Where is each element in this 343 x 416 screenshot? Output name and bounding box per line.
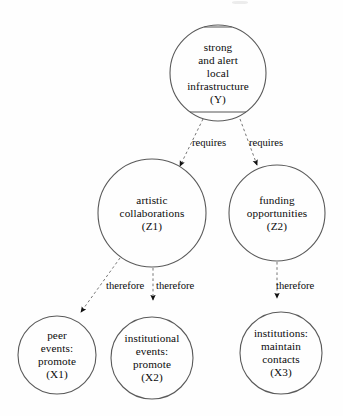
node-x3-institutions-maintain [240, 312, 322, 394]
edge-z1-to-x1-label: therefore [106, 281, 144, 292]
nodes-layer [18, 25, 325, 399]
scan-artifact [232, 1, 248, 4]
diagram-canvas [0, 0, 343, 416]
concept-map-diagram: strongand alertlocalinfrastructure(Y)art… [0, 0, 343, 416]
edge-z1-to-x2-label: therefore [156, 281, 194, 292]
node-y-infrastructure [170, 25, 266, 121]
edge-y-to-z1-label: requires [192, 138, 226, 149]
edge-z2-to-x3-label: therefore [276, 281, 314, 292]
node-x2-institutional-events [111, 317, 193, 399]
node-z1-artistic-collaborations [98, 159, 206, 267]
edge-y-to-z2-label: requires [249, 138, 283, 149]
node-z2-funding-opportunities [229, 165, 325, 261]
node-x1-peer-events [18, 316, 96, 394]
